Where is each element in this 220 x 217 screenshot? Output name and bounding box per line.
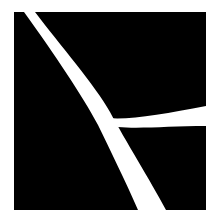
abstract-artwork <box>0 0 220 217</box>
black-square <box>14 12 206 210</box>
